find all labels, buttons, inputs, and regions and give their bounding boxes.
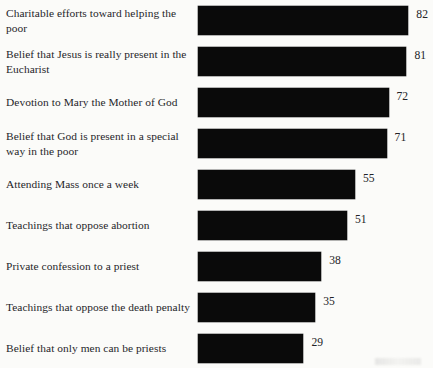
chart-row: Private confession to a priest38 <box>0 246 433 287</box>
chart-row: Charitable efforts toward helping the po… <box>0 0 433 41</box>
bar-track <box>198 129 387 158</box>
bar <box>198 293 315 322</box>
bar-track <box>198 88 389 117</box>
bar-track <box>198 334 303 363</box>
bar <box>198 6 408 35</box>
category-label: Private confession to a priest <box>6 246 192 287</box>
bar-track <box>198 211 347 240</box>
category-label: Devotion to Mary the Mother of God <box>6 82 192 123</box>
horizontal-bar-chart: Charitable efforts toward helping the po… <box>0 0 433 368</box>
category-label: Belief that God is present in a special … <box>6 123 192 164</box>
chart-row: Belief that Jesus is really present in t… <box>0 41 433 82</box>
category-label: Belief that Jesus is really present in t… <box>6 41 192 82</box>
bar-value-label: 29 <box>303 328 323 357</box>
bar-track <box>198 252 321 281</box>
bar-track <box>198 170 355 199</box>
chart-row: Belief that God is present in a special … <box>0 123 433 164</box>
bar-value-label: 72 <box>389 82 409 111</box>
chart-row: Teachings that oppose the death penalty3… <box>0 287 433 328</box>
bar <box>198 88 389 117</box>
bar-value-label: 81 <box>406 41 426 70</box>
category-label: Attending Mass once a week <box>6 164 192 205</box>
bar <box>198 170 355 199</box>
category-label: Teachings that oppose abortion <box>6 205 192 246</box>
bar <box>198 334 303 363</box>
chart-row: Devotion to Mary the Mother of God72 <box>0 82 433 123</box>
bar <box>198 129 387 158</box>
bar-track <box>198 293 315 322</box>
bar-track <box>198 6 408 35</box>
bar <box>198 211 347 240</box>
bar-value-label: 38 <box>321 246 341 275</box>
bar <box>198 252 321 281</box>
chart-row: Teachings that oppose abortion51 <box>0 205 433 246</box>
bar-value-label: 82 <box>408 0 428 29</box>
chart-row: Belief that only men can be priests29 <box>0 328 433 368</box>
category-label: Belief that only men can be priests <box>6 328 192 368</box>
chart-row: Attending Mass once a week55 <box>0 164 433 205</box>
bar-track <box>198 47 406 76</box>
bar <box>198 47 406 76</box>
category-label: Charitable efforts toward helping the po… <box>6 0 192 41</box>
bar-value-label: 35 <box>315 287 335 316</box>
bar-value-label: 71 <box>387 123 407 152</box>
category-label: Teachings that oppose the death penalty <box>6 287 192 328</box>
bar-value-label: 51 <box>347 205 367 234</box>
bar-value-label: 55 <box>355 164 375 193</box>
